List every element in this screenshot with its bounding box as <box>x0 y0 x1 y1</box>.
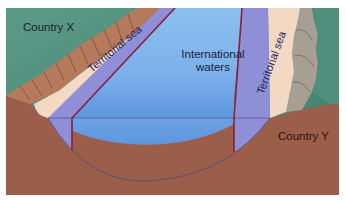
country-x-label: Country X <box>23 22 74 34</box>
international-waters-label: International waters <box>173 48 253 74</box>
international-waters-line1: International <box>173 48 253 61</box>
country-y-label: Country Y <box>278 131 329 143</box>
maritime-zones-diagram: Country X Country Y International waters… <box>0 0 346 201</box>
international-waters-line2: waters <box>173 61 253 74</box>
